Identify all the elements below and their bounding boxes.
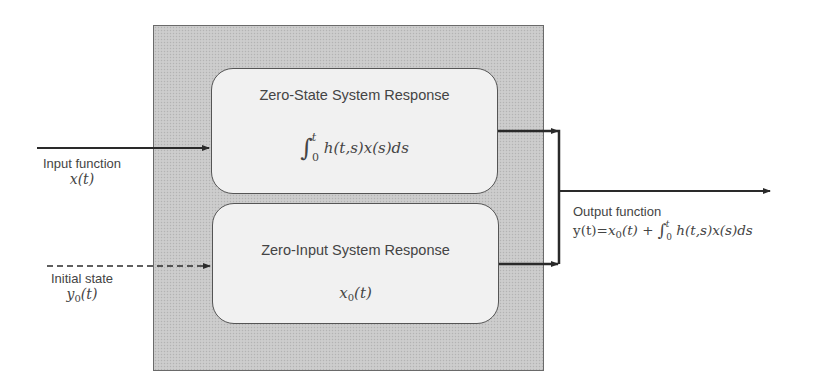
output-lhs: y(t)= bbox=[573, 222, 608, 238]
input-function-math: x(t) bbox=[40, 171, 124, 187]
zero-state-output-wire bbox=[498, 131, 559, 264]
input-function-text: Input function bbox=[40, 156, 124, 171]
output-x0-subscript: 0 bbox=[616, 229, 622, 240]
initial-state-math: y0(t) bbox=[50, 286, 114, 302]
output-x0-base: x bbox=[608, 222, 616, 238]
connection-wires bbox=[0, 0, 830, 389]
initial-state-label: Initial state y0(t) bbox=[50, 271, 114, 302]
output-integrand: h(t,s)x(s)ds bbox=[676, 222, 753, 238]
y0-subscript: 0 bbox=[74, 293, 80, 304]
output-function-label: Output function y(t)=x0(t) + ∫t0 h(t,s)x… bbox=[573, 204, 823, 239]
output-x0-argument: (t) + bbox=[622, 222, 658, 238]
output-integral-upper: t bbox=[666, 219, 670, 229]
y0-argument: (t) bbox=[81, 286, 98, 302]
output-integral-lower: 0 bbox=[666, 232, 672, 242]
input-function-label: Input function x(t) bbox=[40, 156, 124, 187]
output-function-text: Output function bbox=[573, 204, 823, 219]
output-function-formula: y(t)=x0(t) + ∫t0 h(t,s)x(s)ds bbox=[573, 219, 823, 239]
initial-state-text: Initial state bbox=[50, 271, 114, 286]
